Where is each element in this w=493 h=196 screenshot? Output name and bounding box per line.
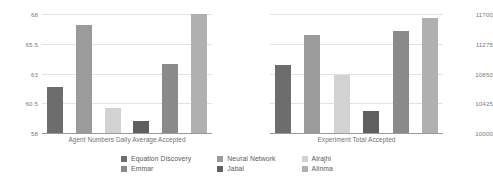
legend-label: Alinma [312,165,333,172]
bar [162,64,178,133]
legend-item[interactable]: Alinma [302,165,333,172]
legend-grid: Equation DiscoveryNeural NetworkAlrajhiE… [121,155,333,172]
x-axis-line [42,133,212,134]
legend-item[interactable]: Jabal [217,165,275,172]
bar [76,25,92,133]
x-axis-line [270,133,443,134]
legend-item[interactable]: Emmar [121,165,191,172]
legend-swatch-icon [121,156,127,162]
legend-swatch-icon [302,156,308,162]
y-tick-label: 58 [0,130,38,137]
legend-swatch-icon [217,156,223,162]
y-tick-label: 63 [0,70,38,77]
legend-label: Alrajhi [312,155,332,162]
bar [304,35,320,133]
legend-swatch-icon [302,166,308,172]
bar [133,121,149,133]
legend-label: Neural Network [227,155,275,162]
bar-group-left [47,14,207,133]
plot-area-left: 5860.56365.568 [0,0,227,152]
legend-item[interactable]: Alrajhi [302,155,333,162]
bar [191,14,207,133]
bar [47,87,63,133]
y-tick-label: 60.5 [0,100,38,107]
bar [334,75,350,133]
legend-item[interactable]: Equation Discovery [121,155,191,162]
legend-label: Equation Discovery [131,155,191,162]
chart-panel-right: 1000010425108501127511700 Experiment Tot… [227,0,454,152]
x-axis-title-right: Experiment Total Accepted [270,136,443,143]
chart-panel-left: 5860.56365.568 Agent Numbers Daily Avera… [0,0,227,152]
x-axis-title-left: Agent Numbers Daily Average Accepted [42,136,212,143]
legend-label: Emmar [131,165,153,172]
bar [275,65,291,133]
bar [393,31,409,133]
y-tick-label: 65.5 [0,40,38,47]
chart-legend: Equation DiscoveryNeural NetworkAlrajhiE… [0,155,454,172]
legend-item[interactable]: Neural Network [217,155,275,162]
y-tick-label: 68 [0,11,38,18]
plot-area-right: 1000010425108501127511700 [227,0,454,152]
y-axis-left: 5860.56365.568 [0,0,38,152]
bar [422,18,438,133]
legend-swatch-icon [121,166,127,172]
bar-group-right [275,14,438,133]
charts-container: 5860.56365.568 Agent Numbers Daily Avera… [0,0,454,152]
bar [363,111,379,133]
legend-swatch-icon [217,166,223,172]
bar [105,108,121,133]
legend-label: Jabal [227,165,244,172]
